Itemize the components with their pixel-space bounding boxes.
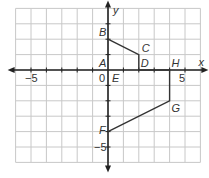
point-label-a: A <box>98 57 106 69</box>
labels: xy−505−5ABCDEHGF <box>25 4 204 153</box>
x-tick-label: −5 <box>25 72 38 84</box>
coordinate-plane-svg: xy−505−5ABCDEHGF <box>0 0 209 178</box>
x-axis-label: x <box>197 56 204 68</box>
point-label-c: C <box>142 42 150 54</box>
point-label-b: B <box>99 26 106 38</box>
coordinate-plane: xy−505−5ABCDEHGF <box>0 0 209 178</box>
x-tick-label: 5 <box>179 72 185 84</box>
point-label-g: G <box>172 102 181 114</box>
y-axis-arrow-down-icon <box>105 165 111 172</box>
x-tick-label: 0 <box>99 72 105 84</box>
y-axis-label: y <box>112 4 120 16</box>
point-label-e: E <box>112 72 120 84</box>
y-tick-label: −5 <box>94 141 107 153</box>
y-axis-arrow-up-icon <box>105 0 111 7</box>
point-label-f: F <box>99 124 107 136</box>
x-axis-arrow-left-icon <box>8 67 15 73</box>
point-label-h: H <box>172 57 180 69</box>
point-label-d: D <box>141 57 149 69</box>
